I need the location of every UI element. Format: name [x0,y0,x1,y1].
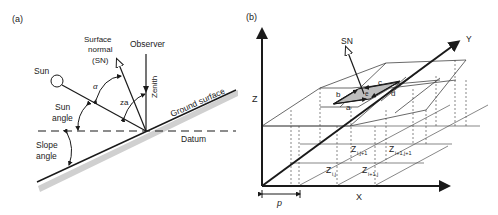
vector-d-label: d [391,89,395,98]
zenith-arrow-icon [143,86,149,93]
surface-normal-label-3: (SN) [92,56,109,65]
surface-normal-label-1: Surface [84,35,112,44]
alpha-arc [96,76,121,100]
slope-angle-label-2: angle [36,151,57,161]
vector-e-label: e [365,90,369,97]
vector-b-label: b [336,90,341,99]
z-ij1-label: Z i,j+1 [351,144,367,156]
p-label: p [276,198,282,208]
vector-a-label: a [346,103,351,112]
observer-label: Observer [130,39,165,49]
za-label: za [120,98,129,107]
surface-normal-label-2: normal [88,45,113,54]
svg-text:Z: Z [351,144,356,154]
sun-label: Sun [34,66,49,76]
y-axis-label: Y [466,34,472,44]
svg-text:Z: Z [326,165,331,175]
sun-icon [51,75,63,87]
x-axis-label: X [356,192,362,202]
z-i1j-label: Z i+1,j [362,165,378,177]
svg-text:Z: Z [362,165,367,175]
sun-ray [62,85,146,131]
vector-c-label: c [378,78,382,87]
datum-label: Datum [181,134,206,144]
svg-text:i,j+1: i,j+1 [357,150,367,156]
slope-angle-label-1: Slope [36,140,58,150]
svg-text:i+1,j+1: i+1,j+1 [395,150,412,156]
alpha-label: α [93,82,98,91]
panel-b-tag: (b) [246,12,257,22]
sn-label: SN [341,36,353,46]
figure-canvas: (a) Sun Surface normal (SN) Observer Zen… [0,0,498,215]
panel-b: (b) [246,12,488,208]
svg-text:i,j: i,j [332,171,336,177]
sun-angle-label-1: Sun [55,102,70,112]
svg-text:i+1,j: i+1,j [368,171,378,177]
surface-normal-arrow [118,62,146,131]
svg-text:Z: Z [389,144,394,154]
sun-angle-arc [78,105,87,130]
slope-angle-arc [67,133,72,165]
z-axis-label: Z [252,94,258,104]
y-axis-arrow [262,42,458,186]
sun-angle-label-2: angle [52,113,73,123]
panel-a: (a) Sun Surface normal (SN) Observer Zen… [12,14,238,192]
z-i1j1-label: Z i+1,j+1 [389,144,412,156]
zenith-label: Zenith [150,76,159,98]
panel-a-tag: (a) [12,14,23,24]
